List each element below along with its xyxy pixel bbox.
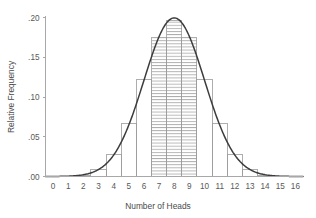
x-axis-tick-label: 12 bbox=[230, 182, 240, 191]
histogram-bar bbox=[242, 170, 257, 177]
y-axis-title: Relative Frequency bbox=[6, 60, 16, 133]
histogram-bar bbox=[182, 38, 197, 177]
y-axis-tick-label: .00 bbox=[28, 173, 40, 182]
histogram-bar bbox=[197, 79, 212, 176]
histogram-bar bbox=[167, 20, 182, 176]
x-axis-tick-label: 0 bbox=[51, 182, 56, 191]
y-axis-tick-label: .05 bbox=[28, 133, 40, 142]
x-axis-tick-label: 9 bbox=[187, 182, 192, 191]
x-axis-tick-label: 10 bbox=[200, 182, 210, 191]
y-axis-tick-label: .15 bbox=[28, 53, 40, 62]
x-axis-tick-label: 6 bbox=[142, 182, 147, 191]
x-axis-tick-label: 7 bbox=[157, 182, 162, 191]
histogram-bar bbox=[152, 38, 167, 177]
histogram-bar bbox=[106, 154, 121, 176]
x-axis-title: Number of Heads bbox=[125, 201, 191, 211]
histogram-bar bbox=[136, 79, 151, 176]
histogram-bar bbox=[227, 154, 242, 176]
x-axis-tick-label: 1 bbox=[66, 182, 71, 191]
y-axis-tick-label: .20 bbox=[28, 14, 40, 23]
x-axis-tick-label: 15 bbox=[276, 182, 286, 191]
x-axis-tick-label: 2 bbox=[81, 182, 86, 191]
x-axis-tick-label: 14 bbox=[261, 182, 271, 191]
chart-canvas: .00.05.10.15.20012345678910111213141516 … bbox=[0, 0, 316, 218]
relative-frequency-histogram: .00.05.10.15.20012345678910111213141516 … bbox=[0, 0, 316, 218]
y-axis-tick-label: .10 bbox=[28, 93, 40, 102]
x-axis-tick-label: 8 bbox=[172, 182, 177, 191]
x-axis-tick-label: 11 bbox=[215, 182, 224, 191]
plot-area bbox=[46, 20, 304, 176]
histogram-bar bbox=[212, 123, 227, 176]
histogram-bar bbox=[91, 170, 106, 177]
histogram-bar bbox=[121, 123, 136, 176]
x-axis-tick-label: 5 bbox=[127, 182, 132, 191]
x-axis-tick-label: 3 bbox=[96, 182, 101, 191]
x-axis-tick-label: 13 bbox=[245, 182, 255, 191]
x-axis-tick-label: 16 bbox=[291, 182, 301, 191]
x-axis-tick-label: 4 bbox=[111, 182, 116, 191]
